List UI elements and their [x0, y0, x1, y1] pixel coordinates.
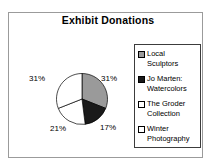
legend-label-groder-collection: The Groder Collection — [147, 99, 198, 119]
legend-swatch-jo-marten — [138, 76, 145, 83]
legend-swatch-groder-collection — [138, 101, 145, 108]
chart-canvas: Exhibit Donations 31% 17% 21% 31% Local … — [0, 0, 210, 166]
legend-item-groder-collection: The Groder Collection — [138, 99, 198, 119]
chart-title: Exhibit Donations — [8, 14, 208, 26]
legend-item-local-sculptors: Local Sculptors — [138, 49, 198, 69]
legend: Local Sculptors Jo Marten: Watercolors T… — [134, 44, 201, 148]
pie-label-jo-marten: 17% — [100, 123, 116, 132]
legend-item-jo-marten: Jo Marten: Watercolors — [138, 74, 198, 94]
legend-swatch-winter-photography — [138, 126, 145, 133]
legend-label-winter-photography: Winter Photography — [147, 124, 198, 144]
pie-label-local-sculptors: 31% — [101, 74, 117, 83]
legend-item-winter-photography: Winter Photography — [138, 124, 198, 144]
pie-label-groder-collection: 21% — [50, 124, 66, 133]
legend-swatch-local-sculptors — [138, 51, 145, 58]
legend-label-local-sculptors: Local Sculptors — [147, 49, 198, 69]
pie-label-winter-photography: 31% — [29, 74, 45, 83]
legend-label-jo-marten: Jo Marten: Watercolors — [147, 74, 198, 94]
